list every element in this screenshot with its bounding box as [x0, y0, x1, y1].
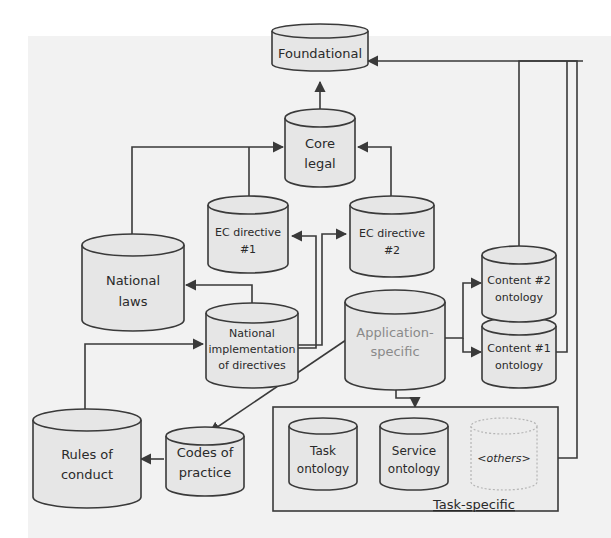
svg-text:implementation: implementation — [208, 343, 295, 356]
svg-text:specific: specific — [370, 344, 419, 359]
svg-text:of directives: of directives — [218, 359, 286, 372]
edge-app-to-content1 — [463, 338, 481, 352]
edge-app-to-task — [396, 388, 415, 407]
svg-text:Core: Core — [305, 136, 335, 151]
svg-text:ontology: ontology — [495, 359, 544, 372]
svg-text:Task: Task — [309, 444, 336, 458]
node-others: <others> — [471, 418, 537, 490]
svg-text:laws: laws — [119, 294, 148, 309]
node-application-specific: Application- specific — [345, 290, 445, 390]
svg-text:Codes of: Codes of — [177, 445, 234, 460]
task-specific-label: Task-specific — [432, 497, 515, 512]
node-content-2: Content #2 ontology — [482, 246, 556, 322]
node-national-implementation: National implementation of directives — [206, 303, 298, 388]
node-task-ontology: Task ontology — [289, 418, 357, 490]
node-content-1: Content #1 ontology — [482, 317, 556, 388]
edge-content2-to-foundational — [519, 61, 583, 246]
svg-text:Content #2: Content #2 — [487, 274, 550, 287]
svg-text:conduct: conduct — [61, 467, 113, 482]
svg-text:Content #1: Content #1 — [487, 342, 550, 355]
edge-app-to-content — [444, 283, 481, 338]
svg-text:ontology: ontology — [495, 291, 544, 304]
edge-impl-to-ec2 — [298, 234, 346, 345]
svg-text:EC directive: EC directive — [215, 226, 281, 239]
svg-text:Application-: Application- — [356, 325, 434, 340]
edge-impl-to-laws — [186, 285, 252, 305]
node-codes-of-practice: Codes of practice — [166, 427, 244, 496]
svg-text:EC directive: EC directive — [359, 227, 425, 240]
svg-text:National: National — [229, 327, 275, 340]
node-service-ontology: Service ontology — [380, 418, 448, 490]
node-rules-of-conduct: Rules of conduct — [33, 409, 141, 508]
node-ec-directive-1: EC directive #1 — [208, 196, 288, 273]
node-ec-directive-2: EC directive #2 — [350, 196, 434, 277]
svg-text:ontology: ontology — [388, 462, 440, 476]
svg-text:National: National — [106, 273, 160, 288]
svg-text:practice: practice — [179, 465, 232, 480]
edge-rules-to-impl — [85, 344, 203, 410]
svg-text:<others>: <others> — [477, 452, 530, 465]
node-core-legal: Core legal — [285, 109, 355, 187]
svg-text:ontology: ontology — [297, 462, 349, 476]
node-foundational: Foundational — [272, 24, 368, 71]
node-national-laws: National laws — [82, 234, 184, 331]
svg-text:#1: #1 — [240, 243, 256, 256]
ontology-diagram: Task-specific Foundational Core legal EC… — [0, 0, 611, 538]
svg-text:Service: Service — [392, 444, 436, 458]
svg-text:legal: legal — [304, 156, 335, 171]
svg-text:Foundational: Foundational — [278, 46, 362, 61]
svg-text:Rules of: Rules of — [61, 447, 113, 462]
svg-text:#2: #2 — [384, 244, 400, 257]
edge-ec2-to-core — [358, 147, 391, 196]
